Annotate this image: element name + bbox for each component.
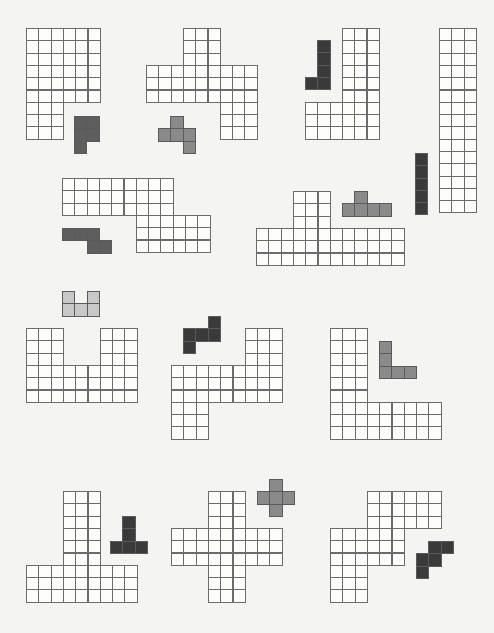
grid-cell	[160, 215, 173, 228]
grid-cell	[112, 353, 125, 366]
grid-cell	[100, 365, 113, 378]
grid-cell	[38, 577, 51, 590]
grid-cell	[439, 65, 452, 78]
grid-cell	[51, 90, 64, 103]
piece-cell	[416, 553, 429, 566]
grid-cell	[464, 53, 477, 66]
grid-cell	[245, 328, 258, 341]
grid-cell	[220, 540, 233, 553]
grid-cell	[38, 328, 51, 341]
grid-cell	[171, 77, 184, 90]
grid-cell	[233, 589, 246, 602]
grid-cell	[330, 402, 343, 415]
grid-cell	[38, 90, 51, 103]
grid-cell	[146, 90, 159, 103]
grid-cell	[318, 216, 331, 229]
grid-cell	[367, 402, 380, 415]
grid-cell	[220, 126, 233, 139]
grid-cell	[183, 553, 196, 566]
grid-cell	[38, 77, 51, 90]
grid-cell	[392, 553, 405, 566]
piece-cell	[74, 303, 87, 316]
grid-cell	[38, 390, 51, 403]
grid-cell	[464, 176, 477, 189]
grid-cell	[220, 565, 233, 578]
grid-cell	[451, 176, 464, 189]
grid-cell	[464, 163, 477, 176]
grid-cell	[75, 577, 88, 590]
grid-cell	[26, 28, 39, 41]
grid-cell	[100, 589, 113, 602]
grid-cell	[63, 90, 76, 103]
grid-cell	[171, 553, 184, 566]
grid-cell	[464, 102, 477, 115]
grid-cell	[244, 126, 257, 139]
piece-cell	[415, 202, 428, 215]
grid-cell	[330, 340, 343, 353]
grid-cell	[257, 528, 270, 541]
grid-cell	[367, 491, 380, 504]
grid-cell	[305, 203, 318, 216]
grid-cell	[51, 353, 64, 366]
grid-cell	[100, 565, 113, 578]
grid-cell	[245, 340, 258, 353]
grid-cell	[88, 365, 101, 378]
grid-cell	[367, 90, 380, 103]
grid-cell	[183, 402, 196, 415]
grid-cell	[464, 188, 477, 201]
grid-cell	[451, 126, 464, 139]
grid-cell	[367, 516, 380, 529]
grid-cell	[112, 365, 125, 378]
grid-cell	[75, 516, 88, 529]
piece-cell	[208, 328, 221, 341]
grid-cell	[51, 589, 64, 602]
piece-cell	[441, 541, 454, 554]
grid-cell	[88, 90, 101, 103]
grid-cell	[38, 377, 51, 390]
grid-cell	[208, 589, 221, 602]
grid-cell	[245, 390, 258, 403]
grid-cell	[269, 553, 282, 566]
piece-cell	[208, 316, 221, 329]
grid-cell	[208, 28, 221, 41]
grid-cell	[148, 240, 161, 253]
grid-cell	[354, 102, 367, 115]
grid-cell	[305, 228, 318, 241]
grid-cell	[355, 365, 368, 378]
grid-cell	[439, 139, 452, 152]
grid-cell	[196, 426, 209, 439]
grid-cell	[88, 565, 101, 578]
piece-cell	[87, 228, 100, 241]
grid-cell	[451, 151, 464, 164]
grid-cell	[75, 390, 88, 403]
grid-cell	[136, 178, 149, 191]
grid-cell	[26, 65, 39, 78]
grid-cell	[63, 540, 76, 553]
piece-cell	[379, 341, 392, 354]
grid-cell	[379, 503, 392, 516]
grid-cell	[63, 577, 76, 590]
grid-cell	[220, 528, 233, 541]
grid-cell	[196, 540, 209, 553]
grid-cell	[38, 114, 51, 127]
grid-cell	[257, 365, 270, 378]
piece-cell	[135, 541, 148, 554]
grid-cell	[75, 28, 88, 41]
grid-cell	[88, 28, 101, 41]
grid-cell	[367, 126, 380, 139]
grid-cell	[183, 28, 196, 41]
grid-cell	[233, 565, 246, 578]
grid-cell	[379, 553, 392, 566]
grid-cell	[63, 40, 76, 53]
piece-cell	[317, 65, 330, 78]
grid-cell	[99, 190, 112, 203]
grid-cell	[26, 353, 39, 366]
grid-cell	[158, 90, 171, 103]
grid-cell	[318, 203, 331, 216]
grid-cell	[38, 589, 51, 602]
grid-cell	[183, 426, 196, 439]
grid-cell	[75, 528, 88, 541]
grid-cell	[293, 203, 306, 216]
grid-cell	[51, 28, 64, 41]
grid-cell	[112, 390, 125, 403]
